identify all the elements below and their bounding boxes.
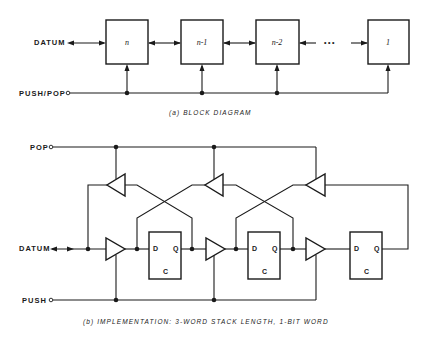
push-pop-terminal — [66, 91, 70, 95]
push-pop-label: PUSH/POP — [19, 90, 66, 98]
block-n-label: n — [125, 39, 129, 47]
block-n-minus-1-label: n-1 — [197, 39, 208, 47]
datum-bidirectional-arrow — [67, 41, 106, 46]
stage-2 — [205, 174, 306, 279]
ff3-c-pin: C — [364, 268, 369, 275]
push-label: PUSH — [22, 297, 47, 305]
block-n-minus-2-label: n-2 — [272, 39, 283, 47]
ellipsis: ••• — [324, 39, 336, 46]
push-buffer-2 — [206, 238, 225, 260]
bidirectional-arrow-n-to-n-minus-1 — [148, 41, 181, 46]
stage-3 — [306, 174, 408, 279]
ff1-q-pin: Q — [173, 245, 178, 252]
datum-line — [50, 185, 107, 252]
stack-diagram-canvas — [0, 0, 432, 343]
ff1-c-pin: C — [163, 268, 168, 275]
ff1-d-pin: D — [153, 245, 158, 252]
pop-label: POP — [30, 144, 49, 152]
pop-line — [49, 145, 316, 179]
push-terminal — [49, 298, 53, 302]
bidirectional-arrow-n-minus-1-to-n-minus-2 — [223, 41, 256, 46]
block-datum-label: DATUM — [34, 39, 66, 47]
ff2-d-pin: D — [252, 245, 257, 252]
impl-datum-label: DATUM — [19, 245, 51, 253]
block-1-label: 1 — [386, 39, 390, 47]
implementation-diagram — [49, 145, 408, 303]
caption-a: (a) BLOCK DIAGRAM — [169, 110, 252, 117]
ff3-d-pin: D — [354, 245, 359, 252]
caption-b: (b) IMPLEMENTATION: 3-WORD STACK LENGTH,… — [83, 319, 329, 326]
ff3-q-pin: Q — [374, 245, 379, 252]
push-pop-bus — [66, 64, 390, 95]
pop-terminal — [49, 145, 53, 149]
block-diagram — [66, 20, 409, 95]
stage-1 — [106, 174, 206, 279]
ff2-c-pin: C — [262, 268, 267, 275]
ff2-q-pin: Q — [272, 245, 277, 252]
